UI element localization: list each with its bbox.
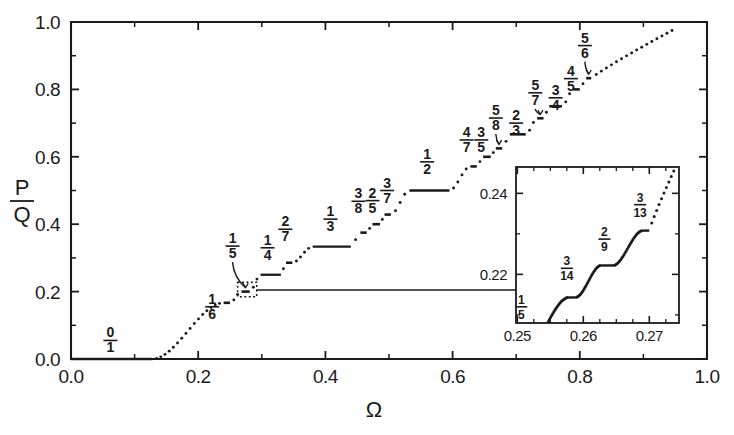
staircase-dot [303, 251, 306, 254]
staircase-dot [582, 82, 585, 85]
fraction-label-2-over-3-denominator: 3 [512, 122, 520, 138]
staircase-dot-tail [671, 29, 674, 32]
inset-staircase-dot-tail [672, 170, 675, 173]
staircase-dot [505, 140, 508, 143]
staircase-dot [180, 337, 183, 340]
staircase-dot-tail [600, 70, 603, 73]
y-axis-title-denominator: Q [13, 202, 30, 227]
y-tick-label: 0.6 [35, 147, 60, 168]
fraction-label-5-over-6-denominator: 6 [581, 45, 589, 61]
y-axis-title-numerator: P [15, 175, 30, 200]
inset-fraction-label-3-over-14-denominator: 14 [560, 269, 574, 283]
inset-x-tick-label: 0.25 [504, 327, 531, 344]
staircase-dot [218, 302, 221, 305]
fraction-label-1-over-4-numerator: 1 [264, 232, 272, 248]
staircase-dot [368, 227, 371, 230]
inset-axes [516, 167, 679, 323]
staircase-dot [159, 355, 162, 358]
staircase-dot-tail [615, 60, 618, 63]
fraction-label-3-over-7-denominator: 7 [383, 190, 391, 206]
staircase-dot [164, 353, 167, 356]
fraction-label-5-over-6-numerator: 5 [581, 30, 589, 46]
staircase-dot [452, 187, 455, 190]
staircase-dot-tail [645, 43, 648, 46]
inset-fraction-label-1-over-5-denominator: 5 [518, 308, 525, 322]
fraction-label-4-over-7-denominator: 7 [463, 139, 471, 155]
fraction-label-3-over-4-numerator: 3 [552, 82, 560, 98]
fraction-label-1-over-2-numerator: 1 [423, 146, 431, 162]
staircase-dot [295, 260, 298, 263]
x-tick-label: 0.6 [440, 366, 465, 387]
staircase-dot [299, 256, 302, 259]
fraction-label-5-over-8-numerator: 5 [492, 102, 500, 118]
inset-fraction-label-2-over-9-numerator: 2 [601, 225, 608, 239]
inset-fraction-label-3-over-13-denominator: 13 [633, 206, 647, 220]
staircase-dot-tail [635, 49, 638, 52]
inset-fraction-label-3-over-14-numerator: 3 [563, 254, 570, 268]
staircase-dot-tail [595, 73, 598, 76]
staircase-dot [394, 209, 397, 212]
y-tick-label: 0.2 [35, 282, 60, 303]
inset-staircase-dot-tail [650, 222, 653, 225]
staircase-dot-tail [660, 35, 663, 38]
fraction-label-1-over-2-denominator: 2 [423, 161, 431, 177]
staircase-dot [492, 151, 495, 154]
staircase-dot [354, 238, 357, 241]
fraction-label-4-over-5-denominator: 5 [567, 78, 575, 94]
staircase-dot-tail [655, 37, 658, 40]
fraction-label-2-over-7-numerator: 2 [281, 213, 289, 229]
fraction-label-3-over-7-numerator: 3 [383, 175, 391, 191]
fraction-label-2-over-3-numerator: 2 [512, 107, 520, 123]
fraction-label-1-over-5-numerator: 1 [229, 230, 237, 246]
staircase-dot [564, 100, 567, 103]
inset-fraction-label-3-over-13-numerator: 3 [637, 191, 644, 205]
fraction-label-5-over-7-numerator: 5 [531, 77, 539, 93]
inset-fraction-label-1-over-5-numerator: 1 [518, 293, 525, 307]
devils-staircase-figure: 0.00.20.40.60.81.00.00.20.40.60.81.0 Ω P… [0, 0, 734, 435]
inset-staircase-dot-tail [667, 180, 670, 183]
x-axis-title: Ω [366, 397, 382, 422]
fraction-label-2-over-5-denominator: 5 [369, 200, 377, 216]
x-tick-label: 0.8 [567, 366, 592, 387]
fraction-label-1-over-5-denominator: 5 [229, 245, 237, 261]
fraction-label-2-over-7-denominator: 7 [281, 228, 289, 244]
plot-canvas: 0.00.20.40.60.81.00.00.20.40.60.81.0 Ω P… [0, 0, 734, 435]
fraction-label-3-over-5-numerator: 3 [477, 124, 485, 140]
staircase-dot [532, 121, 535, 124]
inset-staircase-dot-tail [658, 203, 661, 206]
inset-fraction-label-2-over-9-denominator: 9 [601, 240, 608, 254]
fraction-label-2-over-5-numerator: 2 [369, 185, 377, 201]
fraction-label-3-over-8-denominator: 8 [355, 200, 363, 216]
staircase-dot [465, 167, 468, 170]
fraction-label-0-over-1-denominator: 1 [107, 339, 115, 355]
staircase-dot [307, 247, 310, 250]
staircase-dot [545, 111, 548, 114]
y-tick-label: 1.0 [35, 12, 60, 33]
staircase-dot [172, 346, 175, 349]
fraction-label-1-over-3-denominator: 3 [327, 218, 335, 234]
fraction-label-5-over-7-denominator: 7 [531, 92, 539, 108]
staircase-dot-tail [630, 51, 633, 54]
staircase-dot [155, 357, 158, 360]
staircase-dot-tail [650, 40, 653, 43]
staircase-dot [168, 350, 171, 353]
staircase-dot [189, 327, 192, 330]
fraction-label-5-over-8-denominator: 8 [492, 117, 500, 133]
inset-staircase-dot-tail [660, 197, 663, 200]
x-tick-label: 0.4 [313, 366, 339, 387]
x-tick-label: 0.0 [59, 366, 84, 387]
staircase-dot [403, 193, 406, 196]
staircase-dot [399, 201, 402, 204]
inset-x-tick-label: 0.26 [570, 327, 597, 344]
inset-y-tick-label: 0.24 [480, 185, 507, 202]
y-tick-label: 0.8 [35, 79, 60, 100]
fraction-label-3-over-5-denominator: 5 [477, 139, 485, 155]
staircase-dot [282, 267, 285, 270]
staircase-dot [176, 342, 179, 345]
staircase-dot [184, 332, 187, 335]
y-tick-label: 0.4 [35, 214, 61, 235]
staircase-dot [479, 160, 482, 163]
staircase-dot [201, 313, 204, 316]
staircase-dot-tail [610, 63, 613, 66]
staircase-dot-tail [640, 46, 643, 49]
